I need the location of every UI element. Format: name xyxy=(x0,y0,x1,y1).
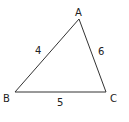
triangle-diagram: A B C 4 6 5 xyxy=(0,0,129,122)
side-label-ac: 6 xyxy=(98,46,104,57)
vertex-label-c: C xyxy=(110,93,117,104)
triangle-abc xyxy=(15,19,106,92)
side-label-ab: 4 xyxy=(35,45,41,56)
vertex-label-b: B xyxy=(3,93,10,104)
vertex-label-a: A xyxy=(75,7,82,18)
side-label-bc: 5 xyxy=(57,97,63,108)
